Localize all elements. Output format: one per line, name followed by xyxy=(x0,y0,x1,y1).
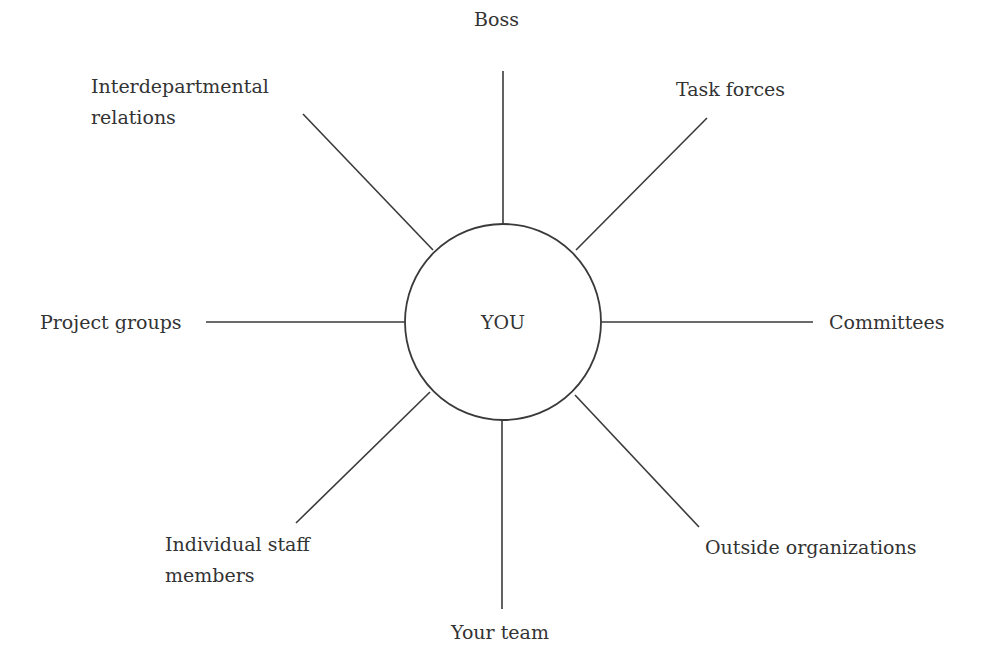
label-boss-line-1: Boss xyxy=(474,4,519,35)
spoke-interdepartmental-relations xyxy=(303,114,433,250)
label-outside-organizations-line-1: Outside organizations xyxy=(705,532,917,563)
label-your-team: Your team xyxy=(451,617,549,648)
center-label-you: YOU xyxy=(463,310,543,334)
label-interdepartmental-relations-line-2: relations xyxy=(91,102,269,133)
spoke-task-forces xyxy=(576,118,707,250)
label-interdepartmental-relations-line-1: Interdepartmental xyxy=(91,71,269,102)
label-your-team-line-1: Your team xyxy=(451,617,549,648)
label-individual-staff-members-line-1: Individual staff xyxy=(165,529,310,560)
spoke-outside-organizations xyxy=(575,395,699,527)
label-outside-organizations: Outside organizations xyxy=(705,532,917,563)
spoke-individual-staff-members xyxy=(296,392,430,523)
label-task-forces-line-1: Task forces xyxy=(676,74,785,105)
label-project-groups-line-1: Project groups xyxy=(40,307,182,338)
label-boss: Boss xyxy=(474,4,519,35)
label-individual-staff-members-line-2: members xyxy=(165,560,310,591)
label-interdepartmental-relations: Interdepartmental relations xyxy=(91,71,269,133)
label-project-groups: Project groups xyxy=(40,307,182,338)
label-committees: Committees xyxy=(829,307,945,338)
label-committees-line-1: Committees xyxy=(829,307,945,338)
label-task-forces: Task forces xyxy=(676,74,785,105)
label-individual-staff-members: Individual staff members xyxy=(165,529,310,591)
